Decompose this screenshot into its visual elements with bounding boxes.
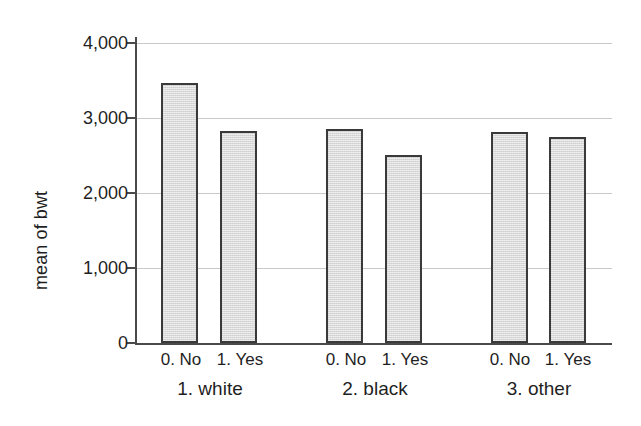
y-tick-3000: 3,000 <box>48 109 128 127</box>
bar-black-yes[interactable] <box>385 155 422 343</box>
x-sublabel-black-yes: 1. Yes <box>365 350 445 370</box>
bar-other-no[interactable] <box>491 132 528 343</box>
y-tick-2000: 2,000 <box>48 184 128 202</box>
x-axis-line <box>135 343 612 345</box>
bar-chart: mean of bwt 4,000 3,000 2,000 1,000 0 <box>0 0 641 426</box>
bar-white-no[interactable] <box>161 83 198 343</box>
gridline-2000 <box>136 193 612 194</box>
y-tick-0: 0 <box>48 334 128 352</box>
gridline-3000 <box>136 118 612 119</box>
x-group-label-white: 1. white <box>150 378 270 400</box>
y-tick-label: 0 <box>48 334 128 352</box>
y-tick-label: 2,000 <box>48 184 128 202</box>
y-tick-4000: 4,000 <box>48 34 128 52</box>
gridline-1000 <box>136 268 612 269</box>
x-group-label-other: 3. other <box>479 378 599 400</box>
y-axis-line <box>135 37 137 345</box>
plot-area: 4,000 3,000 2,000 1,000 0 0. No 1. Yes 0… <box>0 0 641 426</box>
y-tick-label: 1,000 <box>48 259 128 277</box>
y-tick-1000: 1,000 <box>48 259 128 277</box>
y-tick-label: 3,000 <box>48 109 128 127</box>
bar-other-yes[interactable] <box>549 137 586 343</box>
y-tick-label: 4,000 <box>48 34 128 52</box>
gridline-4000 <box>136 43 612 44</box>
bar-black-no[interactable] <box>326 129 363 344</box>
x-sublabel-other-yes: 1. Yes <box>528 350 608 370</box>
x-sublabel-white-yes: 1. Yes <box>200 350 280 370</box>
bar-white-yes[interactable] <box>220 131 257 343</box>
x-group-label-black: 2. black <box>315 378 435 400</box>
